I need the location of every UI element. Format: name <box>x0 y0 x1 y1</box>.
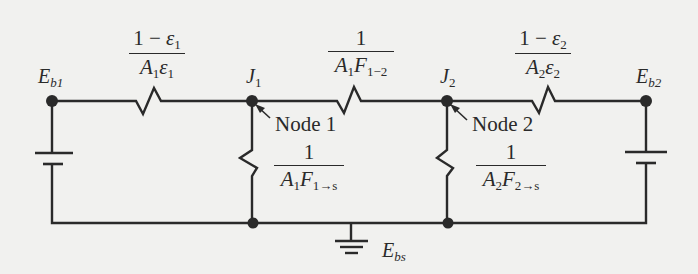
label-ebs: Ebs <box>382 240 406 263</box>
resistance-space1s: 1 A1F1→s <box>274 142 344 192</box>
top-wire-middle <box>252 87 447 113</box>
resistance-surface2: 1 − ε2 A2ε2 <box>515 28 571 80</box>
label-eb1: Eb1 <box>38 66 63 89</box>
top-wire-left <box>52 88 252 114</box>
resistance-surface2-numerator: 1 − ε2 <box>515 28 571 53</box>
left-branch-lower <box>52 164 252 223</box>
label-eb2: Eb2 <box>636 66 661 89</box>
label-j2: J2 <box>440 66 455 89</box>
resistance-space12: 1 A1F1−2 <box>328 28 394 78</box>
node-dot-j1-bottom <box>248 218 259 229</box>
callout-node1: Node 1 <box>275 114 336 135</box>
node-dot-eb1 <box>46 95 58 107</box>
resistance-space1s-denominator: A1F1→s <box>274 166 344 192</box>
resistance-space2s: 1 A2F2→s <box>476 142 546 192</box>
resistor-j1-to-ground <box>240 101 257 223</box>
resistance-space1s-numerator: 1 <box>274 142 344 165</box>
resistor-j2-to-ground <box>437 101 453 223</box>
resistance-surface2-denominator: A2ε2 <box>515 54 571 80</box>
label-j1: J1 <box>246 66 261 89</box>
resistance-space2s-numerator: 1 <box>476 142 546 165</box>
resistance-space12-numerator: 1 <box>328 28 394 51</box>
top-wire-right <box>447 87 646 113</box>
callout-node2: Node 2 <box>472 114 533 135</box>
resistance-surface1-denominator: A1ε1 <box>129 54 185 80</box>
resistance-space2s-denominator: A2F2→s <box>476 166 546 192</box>
resistance-surface1: 1 − ε1 A1ε1 <box>129 28 185 80</box>
node-dot-eb2 <box>640 95 652 107</box>
resistance-surface1-numerator: 1 − ε1 <box>129 28 185 53</box>
node-dot-j2-bottom <box>443 218 454 229</box>
node-dot-j2 <box>441 95 453 107</box>
resistance-space12-denominator: A1F1−2 <box>328 52 394 78</box>
node-dot-j1 <box>246 95 258 107</box>
